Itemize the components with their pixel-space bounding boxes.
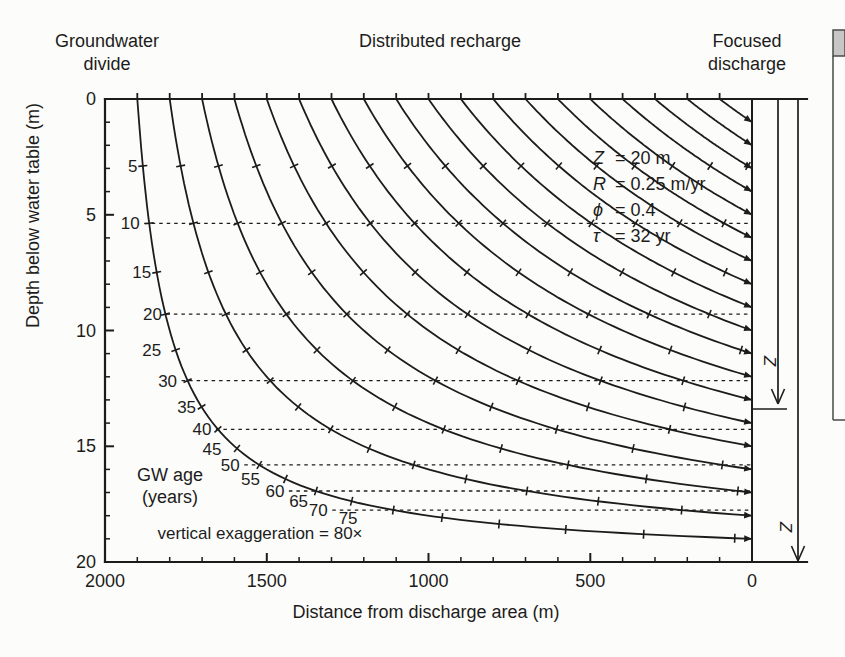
flowline-age-tick-70yr bbox=[681, 506, 682, 515]
flowline-age-tick-45yr bbox=[632, 444, 634, 453]
arrowhead-right-barb bbox=[798, 546, 805, 561]
age-label-35yr: 35 bbox=[177, 398, 196, 417]
flowline-age-tick-25yr bbox=[243, 348, 251, 353]
age-label-15yr: 15 bbox=[132, 263, 151, 282]
flowline-age-tick-10yr bbox=[322, 221, 330, 226]
y-tick-label-10: 10 bbox=[76, 321, 96, 341]
flowline-age-tick-75yr bbox=[442, 513, 443, 522]
gw-age-caption-line1: GW age bbox=[120, 464, 220, 486]
parameter-symbol: Z bbox=[593, 145, 610, 171]
age-label-50yr: 50 bbox=[221, 456, 240, 475]
x-tick-label-2000: 2000 bbox=[85, 571, 125, 591]
flowline-age-tick-40yr bbox=[669, 425, 671, 434]
flowline-arrowhead bbox=[744, 348, 753, 354]
flowline-age-tick-20yr bbox=[161, 313, 170, 315]
flowline-age-tick-35yr bbox=[683, 403, 685, 412]
flowline-age-tick-5yr bbox=[176, 165, 185, 167]
flowline-age-tick-5yr bbox=[366, 164, 374, 169]
y-tick-label-5: 5 bbox=[86, 205, 96, 225]
x-tick-label-500: 500 bbox=[575, 571, 605, 591]
flowline-arrowhead bbox=[744, 301, 753, 307]
flowline-arrowhead bbox=[744, 442, 752, 449]
label-groundwater-divide: Groundwater divide bbox=[37, 30, 177, 76]
parameter-symbol: R bbox=[593, 171, 610, 197]
age-label-55yr: 55 bbox=[241, 470, 260, 489]
age-label-65yr: 65 bbox=[289, 492, 308, 511]
parameter-value: = 20 m bbox=[610, 148, 671, 168]
age-label-45yr: 45 bbox=[203, 440, 222, 459]
age-label-20yr: 20 bbox=[143, 305, 162, 324]
figure-groundwater-age-cross-section: 5101520253035404550556065707520001500100… bbox=[0, 0, 845, 657]
flowline-arrowhead bbox=[744, 115, 752, 122]
arrowhead-left-barb bbox=[792, 546, 799, 561]
flowline-arrowhead bbox=[744, 372, 752, 378]
age-label-10yr: 10 bbox=[121, 214, 140, 233]
flowline-age-tick-60yr bbox=[737, 487, 738, 496]
flowline-x0-1400m bbox=[299, 93, 752, 423]
parameter-symbol: τ bbox=[593, 223, 610, 249]
age-label-70yr: 70 bbox=[309, 501, 328, 520]
label-focused-discharge-line2: discharge bbox=[677, 53, 817, 76]
age-label-30yr: 30 bbox=[158, 372, 177, 391]
flowline-age-tick-15yr bbox=[308, 270, 315, 275]
gw-age-caption-line2: (years) bbox=[120, 486, 220, 508]
z-arrow-upper-label: Z bbox=[760, 355, 779, 367]
flowline-age-tick-90yr bbox=[643, 530, 644, 539]
label-distributed-recharge: Distributed recharge bbox=[340, 30, 540, 53]
flowline-arrowhead bbox=[744, 138, 752, 145]
flowline-age-tick-70yr bbox=[393, 506, 395, 515]
parameter-value: = 0.4 bbox=[610, 200, 656, 220]
flowline-age-tick-5yr bbox=[708, 162, 713, 170]
arrowhead-right-barb bbox=[778, 389, 785, 404]
x-tick-label-1500: 1500 bbox=[247, 571, 287, 591]
flowline-age-tick-85yr bbox=[565, 525, 566, 534]
cutoff-box-gray-header bbox=[833, 30, 845, 56]
x-tick-label-1000: 1000 bbox=[408, 571, 448, 591]
gw-age-caption: GW age (years) bbox=[120, 464, 220, 508]
parameter-value: = 0.25 m/yr bbox=[610, 174, 706, 194]
age-label-40yr: 40 bbox=[192, 420, 211, 439]
parameter-symbol: ϕ bbox=[593, 197, 610, 223]
flowline-age-tick-10yr bbox=[145, 223, 154, 224]
parameter-value: = 32 yr bbox=[610, 226, 671, 246]
flowline-arrowhead bbox=[744, 325, 753, 331]
flowline-age-tick-5yr bbox=[138, 166, 147, 167]
y-tick-label-15: 15 bbox=[76, 436, 96, 456]
x-tick-label-0: 0 bbox=[747, 571, 757, 591]
flowline-age-tick-65yr bbox=[598, 497, 599, 506]
flowline-age-tick-15yr bbox=[152, 272, 161, 274]
flowline-age-tick-65yr bbox=[351, 497, 353, 506]
flowline-age-tick-15yr bbox=[516, 269, 521, 276]
arrowhead-left-barb bbox=[772, 389, 779, 404]
y-tick-label-0: 0 bbox=[86, 89, 96, 109]
parameter-row-τ: τ = 32 yr bbox=[593, 223, 706, 249]
z-arrow-lower-label: Z bbox=[776, 521, 795, 533]
flowline-arrowhead bbox=[744, 465, 752, 472]
flowline-age-tick-80yr bbox=[499, 520, 500, 529]
flowline-x0-200m bbox=[687, 93, 752, 145]
flowline-age-tick-55yr bbox=[646, 475, 647, 484]
flowline-age-tick-10yr bbox=[189, 222, 198, 224]
parameter-row-ϕ: ϕ = 0.4 bbox=[593, 197, 706, 223]
flowline-arrowhead bbox=[744, 535, 752, 542]
flowline-age-tick-50yr bbox=[567, 461, 569, 470]
flowline-arrowhead bbox=[744, 512, 752, 519]
label-focused-discharge: Focused discharge bbox=[677, 30, 817, 76]
age-label-60yr: 60 bbox=[265, 482, 284, 501]
age-label-5yr: 5 bbox=[128, 157, 137, 176]
parameter-row-R: R = 0.25 m/yr bbox=[593, 171, 706, 197]
flow-cross-section-plot: 5101520253035404550556065707520001500100… bbox=[0, 0, 845, 657]
x-axis-title: Distance from discharge area (m) bbox=[276, 602, 576, 623]
label-groundwater-divide-line1: Groundwater bbox=[37, 30, 177, 53]
flowline-age-tick-60yr bbox=[526, 487, 527, 496]
label-focused-discharge-line1: Focused bbox=[677, 30, 817, 53]
age-label-25yr: 25 bbox=[142, 341, 161, 360]
flowline-age-tick-55yr bbox=[465, 475, 467, 484]
y-tick-label-20: 20 bbox=[76, 552, 96, 572]
parameter-row-Z: Z = 20 m bbox=[593, 145, 706, 171]
parameters-block: Z = 20 mR = 0.25 m/yrϕ = 0.4τ = 32 yr bbox=[593, 145, 706, 249]
vertical-exaggeration-note: vertical exaggeration = 80× bbox=[110, 524, 410, 544]
flowline-age-tick-50yr bbox=[722, 461, 723, 470]
label-groundwater-divide-line2: divide bbox=[37, 53, 177, 76]
